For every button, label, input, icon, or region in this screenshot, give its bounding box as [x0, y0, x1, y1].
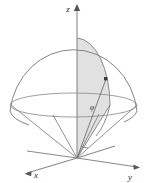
shaded-wedge-group	[77, 38, 110, 158]
equator-group	[10, 93, 137, 117]
dome-lower-silhouette-right	[124, 111, 137, 122]
point-marker	[104, 77, 107, 80]
angle-label: φ	[90, 103, 94, 112]
y-axis-line	[77, 158, 137, 167]
geometry-figure: z x y φ	[0, 0, 144, 183]
cone-group	[11, 105, 137, 158]
x-axis-label: x	[33, 170, 38, 180]
x-axis-arrow-icon	[25, 171, 32, 176]
z-axis-arrow-icon	[74, 4, 80, 11]
x-axis-group: x	[25, 146, 116, 180]
y-axis-arrow-icon	[133, 165, 140, 170]
z-axis-label: z	[65, 4, 70, 14]
dome-silhouette	[10, 50, 137, 111]
cone-edge-front-left	[53, 115, 77, 158]
figure-canvas: z x y φ	[0, 0, 144, 183]
cone-edge-left	[11, 105, 77, 158]
y-axis-label: y	[127, 172, 132, 182]
equator-ellipse	[10, 93, 137, 117]
